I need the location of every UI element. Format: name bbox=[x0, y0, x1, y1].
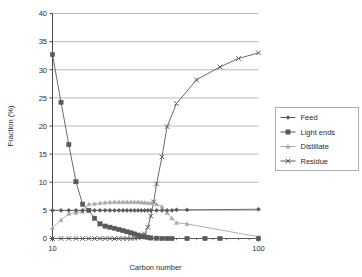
square-marker bbox=[286, 130, 290, 134]
square-marker bbox=[50, 52, 54, 56]
square-marker bbox=[160, 236, 164, 240]
series-group bbox=[50, 51, 261, 241]
square-marker bbox=[80, 202, 84, 206]
chart-figure: 051015202530354010100Carbon numberFracti… bbox=[0, 0, 362, 277]
diamond-marker bbox=[67, 208, 71, 212]
x-tick-label-10: 10 bbox=[48, 244, 56, 253]
square-marker bbox=[149, 236, 153, 240]
marker-diamond bbox=[174, 208, 178, 212]
legend-label: Light ends bbox=[301, 128, 336, 137]
square-marker bbox=[108, 225, 112, 229]
marker-square bbox=[160, 236, 164, 240]
marker-cross bbox=[174, 101, 179, 106]
marker-square bbox=[121, 228, 125, 232]
y-tick-label-25: 25 bbox=[39, 94, 47, 103]
y-tick-label-30: 30 bbox=[39, 66, 47, 75]
y-tick-label-40: 40 bbox=[39, 9, 47, 18]
y-tick-label-35: 35 bbox=[39, 37, 47, 46]
marker-diamond bbox=[92, 208, 96, 212]
marker-cross bbox=[218, 65, 223, 70]
square-marker bbox=[203, 236, 207, 240]
marker-diamond bbox=[170, 208, 174, 212]
marker-square bbox=[165, 236, 169, 240]
square-marker bbox=[218, 236, 222, 240]
diamond-marker bbox=[121, 208, 125, 212]
y-tick-label-10: 10 bbox=[39, 178, 47, 187]
legend-label: Distillate bbox=[301, 142, 329, 151]
marker-square bbox=[218, 236, 222, 240]
marker-diamond bbox=[112, 208, 116, 212]
diamond-marker bbox=[59, 208, 63, 212]
x-tick-label-100: 100 bbox=[252, 244, 265, 253]
diamond-marker bbox=[165, 208, 169, 212]
y-tick-label-0: 0 bbox=[43, 234, 47, 243]
cross-marker bbox=[218, 65, 223, 70]
diamond-marker bbox=[185, 208, 189, 212]
square-marker bbox=[154, 236, 158, 240]
diamond-marker bbox=[50, 208, 54, 212]
diamond-marker bbox=[174, 208, 178, 212]
square-marker bbox=[117, 227, 121, 231]
marker-square bbox=[112, 226, 116, 230]
square-marker bbox=[112, 226, 116, 230]
legend-label: Feed bbox=[301, 113, 318, 122]
diamond-marker bbox=[92, 208, 96, 212]
square-marker bbox=[103, 224, 107, 228]
marker-cross bbox=[194, 78, 199, 83]
marker-square bbox=[286, 130, 290, 134]
marker-diamond bbox=[67, 208, 71, 212]
marker-square bbox=[154, 236, 158, 240]
marker-square bbox=[108, 225, 112, 229]
diamond-marker bbox=[117, 208, 121, 212]
square-marker bbox=[98, 222, 102, 226]
diamond-marker bbox=[112, 208, 116, 212]
square-marker bbox=[121, 228, 125, 232]
marker-diamond bbox=[103, 208, 107, 212]
x-axis-title: Carbon number bbox=[129, 263, 182, 272]
diamond-marker bbox=[256, 207, 260, 211]
legend-label: Residue bbox=[301, 157, 329, 166]
marker-diamond bbox=[121, 208, 125, 212]
marker-diamond bbox=[117, 208, 121, 212]
series-line-distillate bbox=[53, 202, 259, 237]
y-axis-title: Fraction (%) bbox=[6, 105, 15, 146]
marker-square bbox=[256, 236, 260, 240]
marker-diamond bbox=[185, 208, 189, 212]
marker-square bbox=[50, 52, 54, 56]
y-tick-label-5: 5 bbox=[43, 206, 47, 215]
square-marker bbox=[92, 216, 96, 220]
marker-diamond bbox=[50, 208, 54, 212]
marker-square bbox=[80, 202, 84, 206]
marker-square bbox=[92, 216, 96, 220]
marker-diamond bbox=[59, 208, 63, 212]
diamond-marker bbox=[98, 208, 102, 212]
marker-diamond bbox=[256, 207, 260, 211]
marker-square bbox=[149, 236, 153, 240]
marker-square bbox=[67, 142, 71, 146]
marker-square bbox=[117, 227, 121, 231]
chart-canvas: 051015202530354010100Carbon numberFracti… bbox=[0, 0, 362, 277]
square-marker bbox=[165, 236, 169, 240]
cross-marker bbox=[194, 78, 199, 83]
marker-square bbox=[74, 179, 78, 183]
diamond-marker bbox=[74, 208, 78, 212]
marker-square bbox=[98, 222, 102, 226]
square-marker bbox=[74, 179, 78, 183]
square-marker bbox=[256, 236, 260, 240]
diamond-marker bbox=[108, 208, 112, 212]
legend: FeedLight endsDistillateResidue bbox=[276, 108, 359, 171]
marker-square bbox=[203, 236, 207, 240]
gridlines bbox=[53, 14, 259, 211]
y-tick-label-20: 20 bbox=[39, 122, 47, 131]
marker-square bbox=[185, 236, 189, 240]
marker-square bbox=[59, 100, 63, 104]
marker-diamond bbox=[74, 208, 78, 212]
marker-diamond bbox=[165, 208, 169, 212]
y-axis-ticks: 0510152025303540 bbox=[39, 9, 53, 243]
marker-square bbox=[103, 224, 107, 228]
cross-marker bbox=[174, 101, 179, 106]
diamond-marker bbox=[154, 208, 158, 212]
diamond-marker bbox=[170, 208, 174, 212]
marker-diamond bbox=[98, 208, 102, 212]
square-marker bbox=[170, 236, 174, 240]
